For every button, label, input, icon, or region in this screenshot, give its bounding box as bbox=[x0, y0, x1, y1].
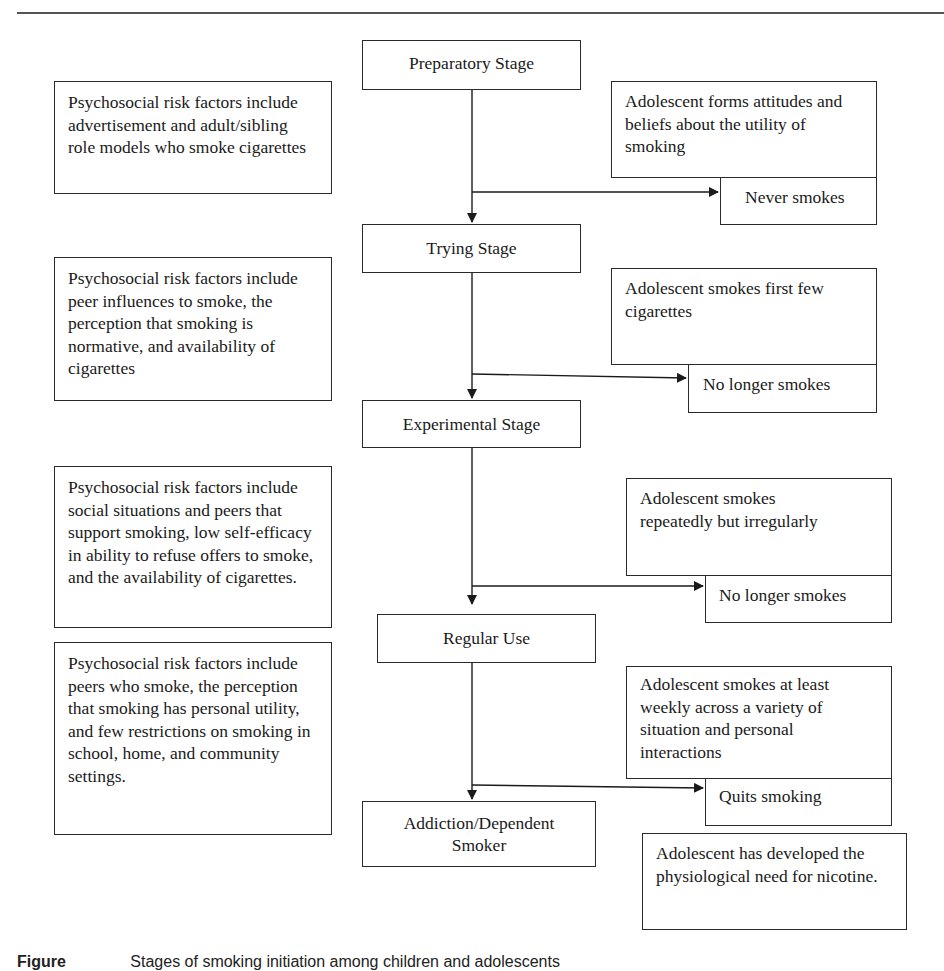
stage-label: Experimental Stage bbox=[403, 413, 541, 436]
risk-factors-text: Psychosocial risk factors include social… bbox=[68, 477, 313, 587]
exit-never-smokes: Never smokes bbox=[720, 177, 877, 225]
stage-label: Addiction/Dependent Smoker bbox=[393, 812, 565, 857]
figure-caption: Figure Stages of smoking initiation amon… bbox=[17, 953, 560, 971]
description-text: Adolescent smokes at least weekly across… bbox=[640, 674, 829, 762]
description-text: Adolescent smokes repeatedly but irregul… bbox=[640, 488, 818, 531]
stage-label: Regular Use bbox=[443, 627, 530, 650]
description-preparatory: Adolescent forms attitudes and beliefs a… bbox=[611, 81, 877, 178]
risk-factors-text: Psychosocial risk factors include peers … bbox=[68, 653, 311, 786]
description-text: Adolescent smokes first few cigarettes bbox=[625, 278, 824, 321]
description-addiction: Adolescent has developed the physiologic… bbox=[642, 833, 907, 930]
stage-addiction: Addiction/Dependent Smoker bbox=[362, 801, 596, 867]
stage-preparatory: Preparatory Stage bbox=[362, 40, 581, 90]
description-text: Adolescent forms attitudes and beliefs a… bbox=[625, 91, 842, 156]
stage-label: Preparatory Stage bbox=[409, 52, 534, 75]
description-trying: Adolescent smokes first few cigarettes bbox=[611, 268, 877, 365]
risk-factors-preparatory: Psychosocial risk factors include advert… bbox=[54, 81, 332, 194]
exit-label: No longer smokes bbox=[719, 585, 846, 605]
exit-no-longer-smokes-2: No longer smokes bbox=[705, 575, 892, 623]
caption-label: Figure bbox=[17, 953, 66, 970]
exit-label: No longer smokes bbox=[703, 374, 830, 394]
risk-factors-text: Psychosocial risk factors include advert… bbox=[68, 92, 306, 157]
exit-label: Quits smoking bbox=[719, 786, 822, 806]
stage-regular-use: Regular Use bbox=[377, 614, 596, 663]
exit-quits-smoking: Quits smoking bbox=[705, 778, 892, 826]
risk-factors-text: Psychosocial risk factors include peer i… bbox=[68, 268, 298, 378]
stage-trying: Trying Stage bbox=[362, 224, 581, 273]
risk-factors-trying: Psychosocial risk factors include peer i… bbox=[54, 257, 332, 401]
header-rule bbox=[17, 12, 944, 14]
exit-no-longer-smokes-1: No longer smokes bbox=[688, 364, 877, 413]
exit-label: Never smokes bbox=[745, 187, 845, 207]
description-experimental: Adolescent smokes repeatedly but irregul… bbox=[626, 478, 892, 576]
stage-experimental: Experimental Stage bbox=[362, 400, 581, 448]
risk-factors-regular: Psychosocial risk factors include peers … bbox=[54, 642, 332, 835]
description-text: Adolescent has developed the physiologic… bbox=[656, 843, 878, 886]
caption-text: Stages of smoking initiation among child… bbox=[130, 953, 560, 970]
description-regular: Adolescent smokes at least weekly across… bbox=[626, 666, 892, 779]
stage-label: Trying Stage bbox=[426, 237, 516, 260]
risk-factors-experimental: Psychosocial risk factors include social… bbox=[54, 466, 332, 628]
